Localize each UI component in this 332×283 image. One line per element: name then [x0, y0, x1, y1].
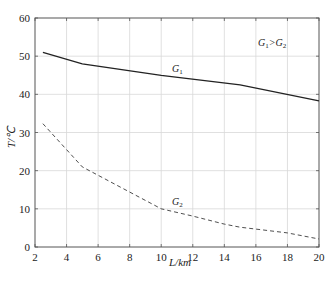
x-tick-label: 16: [250, 251, 262, 263]
y-tick-label: 10: [19, 203, 31, 215]
x-tick-label: 2: [32, 251, 38, 263]
y-tick-label: 40: [19, 88, 31, 100]
y-tick-label: 60: [19, 12, 31, 24]
tick-labels: 24681012141618200102030405060: [19, 12, 325, 263]
x-tick-label: 14: [219, 251, 231, 263]
x-tick-label: 6: [95, 251, 101, 263]
annotation-g1-gt-g2: G1>G2: [258, 37, 287, 50]
x-tick-label: 8: [127, 251, 133, 263]
x-tick-label: 4: [64, 251, 70, 263]
y-tick-label: 50: [19, 50, 31, 62]
line-chart: 24681012141618200102030405060 L/km T/℃ G…: [0, 0, 332, 283]
x-tick-label: 20: [314, 251, 326, 263]
x-tick-label: 10: [156, 251, 168, 263]
series-lines: [43, 52, 319, 239]
series-line-g1: [43, 52, 319, 101]
y-axis-label: T/℃: [5, 125, 17, 148]
series-label-g2: G2: [172, 196, 183, 209]
series-line-g2: [43, 124, 319, 239]
y-tick-label: 30: [19, 127, 31, 139]
x-tick-label: 18: [282, 251, 294, 263]
y-tick-label: 0: [25, 241, 31, 253]
y-tick-label: 20: [19, 165, 31, 177]
x-axis-label: L/km: [168, 256, 191, 268]
series-label-g1: G1: [172, 63, 183, 76]
